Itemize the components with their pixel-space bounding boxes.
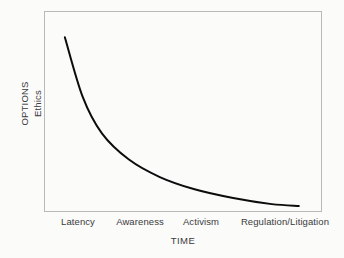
x-tick-label-awareness: Awareness [104,216,176,227]
decay-curve [44,11,322,212]
decay-curve-path [65,37,299,206]
x-tick-label-regulation-litigation: Regulation/Litigation [228,216,342,227]
chart-screenshot: OPTIONS Ethics Latency Awareness Activis… [0,0,344,258]
x-tick-label-activism: Activism [168,216,234,227]
y-axis-title: OPTIONS [19,58,30,150]
x-tick-label-latency: Latency [48,216,108,227]
y-axis-subtitle: Ethics [32,58,43,150]
x-axis-title: TIME [44,235,322,246]
